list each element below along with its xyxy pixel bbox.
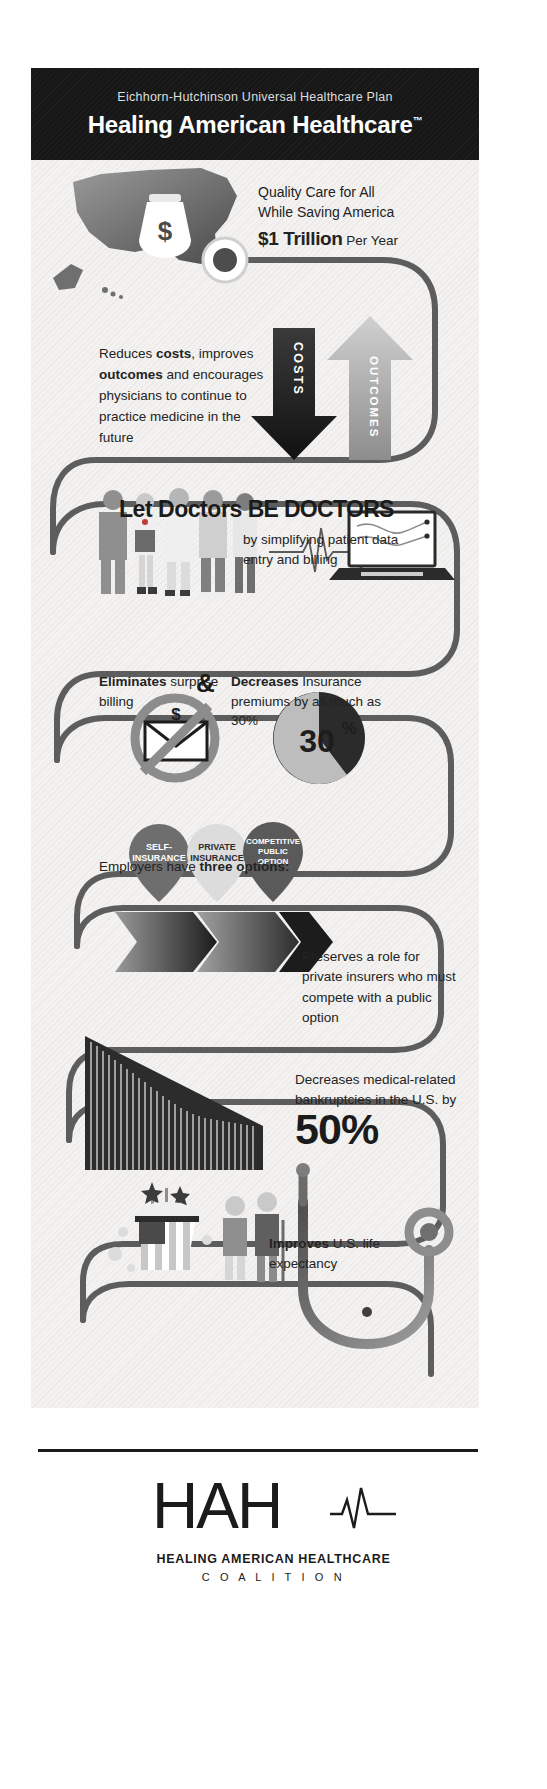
page-title: Healing American Healthcare™ xyxy=(88,111,423,139)
dollar-bag-icon: $ xyxy=(139,194,191,258)
chevron-arrow-icon xyxy=(115,912,333,972)
hah-logo: HAH xyxy=(144,1470,404,1544)
savings-line-2: While Saving America xyxy=(258,202,458,222)
life-expectancy-text: Improves U.S. life expectancy xyxy=(269,1234,429,1275)
ampersand-symbol: & xyxy=(196,668,215,699)
costs-outcomes-paragraph: Reduces costs, improves outcomes and enc… xyxy=(99,344,274,449)
page-title-text: Healing American Healthcare xyxy=(88,111,413,138)
costs-arrow-label: COSTS xyxy=(291,342,305,396)
options-heading-bold: three options: xyxy=(200,859,290,874)
savings-line-1: Quality Care for All xyxy=(258,182,458,202)
svg-text:$: $ xyxy=(158,216,173,246)
options-side-text: Preserves a role for private insurers wh… xyxy=(302,947,457,1028)
costs-bold-1: costs xyxy=(156,346,191,361)
doctors-heading: Let Doctors BE DOCTORS xyxy=(119,496,419,523)
header-banner: Eichhorn-Hutchinson Universal Healthcare… xyxy=(31,68,479,160)
birthday-cupcake-icon xyxy=(108,1182,212,1272)
infographic-page: Eichhorn-Hutchinson Universal Healthcare… xyxy=(0,0,547,1789)
outcomes-arrow-label: OUTCOMES xyxy=(368,356,380,438)
savings-text-block: Quality Care for All While Saving Americ… xyxy=(258,182,458,252)
outcomes-up-arrow-icon: OUTCOMES xyxy=(327,316,413,460)
doctors-subtext: by simplifying patient data entry and bi… xyxy=(243,530,423,571)
ekg-pulse-icon xyxy=(330,1488,396,1528)
footer: HAH HEALING AMERICAN HEALTHCARE C O A L … xyxy=(0,1470,547,1583)
doctors-heading-light: Let Doctors xyxy=(119,496,248,522)
savings-amount: $1 Trillion xyxy=(258,228,343,249)
svg-text:PUBLIC: PUBLIC xyxy=(258,847,288,856)
svg-text:PRIVATE: PRIVATE xyxy=(198,842,236,852)
svg-text:SELF-: SELF- xyxy=(146,842,172,852)
trademark-symbol: ™ xyxy=(413,115,423,126)
costs-bold-2: outcomes xyxy=(99,367,163,382)
billing-left-bold: Eliminates xyxy=(99,674,167,689)
footer-coalition: C O A L I T I O N xyxy=(202,1571,345,1583)
bankruptcies-big-number: 50% xyxy=(295,1105,378,1154)
ribbon-path-life xyxy=(83,1284,431,1374)
savings-amount-line: $1 Trillion Per Year xyxy=(258,225,458,253)
costs-text-2: , improves xyxy=(191,346,253,361)
life-expectancy-bold: Improves xyxy=(269,1236,329,1251)
header-subtitle: Eichhorn-Hutchinson Universal Healthcare… xyxy=(117,90,392,104)
options-heading-plain: Employers have xyxy=(99,859,200,874)
savings-period: Per Year xyxy=(343,233,399,248)
hah-logo-text: HAH xyxy=(152,1470,281,1542)
billing-right-text: Decreases Insurance premiums by as much … xyxy=(231,672,406,731)
costs-text-1: Reduces xyxy=(99,346,156,361)
footer-org-name: HEALING AMERICAN HEALTHCARE xyxy=(157,1552,391,1566)
doctors-heading-bold: BE DOCTORS xyxy=(248,496,394,522)
svg-text:COMPETITIVE: COMPETITIVE xyxy=(246,837,301,846)
footer-divider xyxy=(38,1449,478,1452)
options-heading: Employers have three options: xyxy=(99,857,349,877)
target-marker-icon xyxy=(203,238,247,282)
billing-right-bold: Decreases xyxy=(231,674,299,689)
